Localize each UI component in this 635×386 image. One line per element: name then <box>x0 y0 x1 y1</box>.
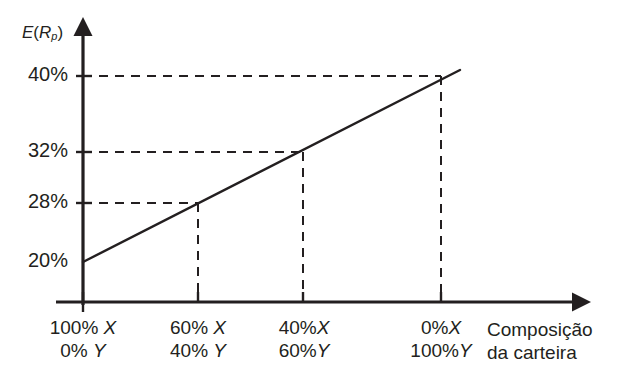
xtick-0pctX-symbol-x: X <box>448 317 461 338</box>
y-axis-title-variable: R <box>39 23 51 42</box>
ytick-label-28: 28% <box>6 191 68 211</box>
y-axis-title: E(Rp) <box>22 24 63 42</box>
xtick-40pctX-value-x: 40% <box>279 317 317 338</box>
xtick-100pctX-symbol-y: Y <box>93 340 106 361</box>
ytick-label-40: 40% <box>6 64 68 84</box>
x-axis-caption-line2: da carteira <box>487 341 593 364</box>
y-axis-title-close-paren: ) <box>57 23 63 42</box>
ytick-label-20: 20% <box>6 250 68 270</box>
xtick-40pctX-value-y: 60% <box>279 340 317 361</box>
xtick-label-100pctX-row2: 0% Y <box>18 339 148 362</box>
xtick-0pctX-value-x: 0% <box>421 317 448 338</box>
vertical-guide-lines <box>198 76 441 302</box>
xtick-0pctX-value-y: 100% <box>410 340 459 361</box>
xtick-60pctX-value-x: 60% <box>170 317 208 338</box>
xtick-0pctX-symbol-y: Y <box>459 340 472 361</box>
xtick-60pctX-value-y: 40% <box>170 340 208 361</box>
xtick-label-40pctX-row1: 40%X <box>239 316 369 339</box>
xtick-100pctX-symbol-x: X <box>104 317 117 338</box>
chart-figure: E(Rp) 40% 32% 28% 20% 100% X 0% Y 60% X … <box>0 0 635 386</box>
xtick-60pctX-symbol-y: Y <box>213 340 226 361</box>
xtick-40pctX-symbol-y: Y <box>317 340 330 361</box>
xtick-label-100pctX: 100% X 0% Y <box>18 316 148 362</box>
x-axis-caption-line1: Composição <box>487 318 593 341</box>
y-axis-title-prefix: E <box>22 23 33 42</box>
xtick-label-100pctX-row1: 100% X <box>18 316 148 339</box>
x-axis-caption: Composição da carteira <box>487 318 593 364</box>
ytick-label-32: 32% <box>6 140 68 160</box>
xtick-40pctX-symbol-x: X <box>317 317 330 338</box>
data-line-expected-return <box>83 70 460 262</box>
xtick-100pctX-value-y: 0% <box>60 340 87 361</box>
xtick-label-40pctX-row2: 60%Y <box>239 339 369 362</box>
xtick-100pctX-value-x: 100% <box>50 317 99 338</box>
xtick-label-40pctX: 40%X 60%Y <box>239 316 369 362</box>
xtick-60pctX-symbol-x: X <box>213 317 226 338</box>
horizontal-guide-lines <box>83 76 441 203</box>
